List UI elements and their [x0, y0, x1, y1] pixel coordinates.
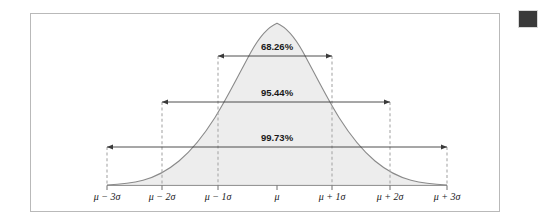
axis-label-minus-1-sigma: μ − 1σ: [204, 191, 233, 202]
percent-label-68: 68.26%: [261, 41, 294, 52]
figure-root: 68.26% 95.44% 99.73% μ − 3σ μ − 2σ μ − 1…: [0, 0, 540, 221]
percent-label-95: 95.44%: [261, 87, 294, 98]
distribution-plot: 68.26% 95.44% 99.73% μ − 3σ μ − 2σ μ − 1…: [0, 0, 540, 221]
axis-label-plus-3-sigma: μ + 3σ: [433, 191, 462, 202]
percent-label-99: 99.73%: [261, 132, 294, 143]
axis-ticks: [107, 185, 447, 190]
axis-label-minus-2-sigma: μ − 2σ: [148, 191, 177, 202]
axis-label-mu: μ: [273, 191, 279, 202]
axis-label-minus-3-sigma: μ − 3σ: [93, 191, 122, 202]
axis-label-plus-1-sigma: μ + 1σ: [318, 191, 347, 202]
axis-label-plus-2-sigma: μ + 2σ: [376, 191, 405, 202]
